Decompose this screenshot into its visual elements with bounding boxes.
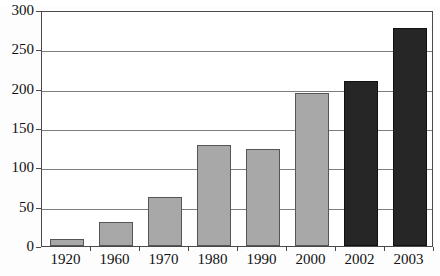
y-tick-label: 50 bbox=[0, 200, 41, 215]
y-tick-label-text: 250 bbox=[12, 42, 42, 57]
x-axis-labels: 19201960197019801990200020022003 bbox=[41, 250, 433, 274]
y-tick-mark bbox=[36, 247, 41, 248]
x-tick-mark bbox=[139, 247, 140, 251]
x-tick-mark bbox=[384, 247, 385, 251]
y-tick-label-text: 0 bbox=[27, 239, 42, 254]
y-tick-label: 200 bbox=[0, 82, 41, 97]
bar bbox=[295, 93, 329, 246]
x-tick-label: 1960 bbox=[90, 250, 139, 268]
x-tick-label: 1970 bbox=[139, 250, 188, 268]
x-tick-label: 1980 bbox=[188, 250, 237, 268]
y-tick-label: 150 bbox=[0, 121, 41, 136]
bar bbox=[148, 197, 182, 246]
scan-artifact-strip bbox=[0, 0, 440, 6]
x-tick-mark bbox=[433, 247, 434, 251]
bar bbox=[344, 81, 378, 246]
x-tick-label: 2002 bbox=[335, 250, 384, 268]
bar bbox=[50, 239, 84, 246]
y-tick-label: 0 bbox=[0, 239, 41, 254]
y-tick-label-text: 200 bbox=[12, 82, 42, 97]
plot-area bbox=[41, 11, 433, 247]
bar-chart: 050100150200250300 192019601970198019902… bbox=[0, 0, 440, 276]
x-tick-label: 2000 bbox=[286, 250, 335, 268]
x-tick-label: 1920 bbox=[41, 250, 90, 268]
x-tick-mark bbox=[335, 247, 336, 251]
x-tick-mark bbox=[237, 247, 238, 251]
x-tick-label: 1990 bbox=[237, 250, 286, 268]
y-tick-label-text: 100 bbox=[12, 160, 42, 175]
bar bbox=[197, 145, 231, 246]
bar bbox=[393, 28, 427, 246]
x-tick-mark bbox=[90, 247, 91, 251]
y-tick-label-text: 50 bbox=[19, 200, 41, 215]
bar bbox=[246, 149, 280, 246]
y-tick-label: 100 bbox=[0, 160, 41, 175]
y-tick-label: 250 bbox=[0, 42, 41, 57]
x-tick-mark bbox=[188, 247, 189, 251]
y-tick-label-text: 150 bbox=[12, 121, 42, 136]
x-tick-label: 2003 bbox=[384, 250, 433, 268]
x-tick-mark bbox=[286, 247, 287, 251]
bars-layer bbox=[42, 12, 432, 246]
bar bbox=[99, 222, 133, 246]
